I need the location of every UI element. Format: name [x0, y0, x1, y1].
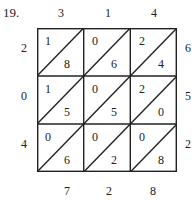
- bottom-digit: 8: [146, 185, 160, 197]
- cell-ones-digit: 8: [60, 58, 74, 70]
- cell-tens-digit: 0: [41, 131, 55, 143]
- right-digit: 5: [181, 90, 195, 102]
- cell-tens-digit: 0: [88, 131, 102, 143]
- cell-ones-digit: 2: [107, 154, 121, 166]
- left-digit: 2: [17, 42, 31, 54]
- cell-ones-digit: 6: [107, 58, 121, 70]
- cell-ones-digit: 4: [154, 58, 168, 70]
- cell-tens-digit: 0: [88, 35, 102, 47]
- cell-ones-digit: 0: [154, 106, 168, 118]
- bottom-digit: 2: [102, 185, 116, 197]
- top-digit: 1: [101, 7, 115, 19]
- left-digit: 0: [17, 90, 31, 102]
- cell-tens-digit: 2: [135, 83, 149, 95]
- cell-ones-digit: 6: [60, 154, 74, 166]
- problem-number: 19.: [3, 7, 19, 19]
- grid-lines: [37, 28, 177, 172]
- right-digit: 2: [181, 138, 195, 150]
- cell-tens-digit: 2: [135, 35, 149, 47]
- left-digit: 4: [17, 138, 31, 150]
- bottom-digit: 7: [60, 185, 74, 197]
- cell-ones-digit: 5: [107, 106, 121, 118]
- cell-tens-digit: 0: [88, 83, 102, 95]
- top-digit: 3: [54, 7, 68, 19]
- right-digit: 6: [181, 42, 195, 54]
- cell-tens-digit: 0: [135, 131, 149, 143]
- cell-tens-digit: 1: [41, 35, 55, 47]
- lattice-grid: 1 8 0 6 2 4 1 5 0 5 2 0 0 6 0 2 0 8: [37, 28, 177, 172]
- cell-ones-digit: 5: [60, 106, 74, 118]
- cell-ones-digit: 8: [154, 154, 168, 166]
- cell-tens-digit: 1: [41, 83, 55, 95]
- top-digit: 4: [147, 7, 161, 19]
